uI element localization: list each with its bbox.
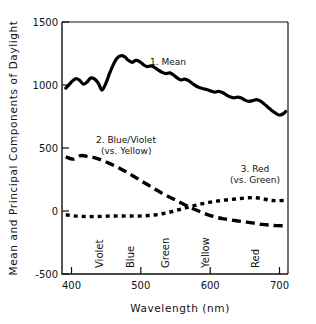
y-axis-tick-labels: 1500 1000 500 0 -500 [33,17,58,280]
x-tick-label: 500 [131,280,150,291]
x-tick-label: 400 [62,280,81,291]
y-tick-label: 1000 [33,80,58,91]
series-line-red-green [66,198,286,217]
band-label-violet: Violet [94,240,105,268]
y-tick-label: 500 [39,143,58,154]
annotation-blue-violet: 2. Blue/Violet [96,135,156,145]
color-band-labels: Violet Blue Green Yellow Red [94,237,261,269]
y-tick-label: 1500 [33,17,58,28]
daylight-spectrum-figure: 1500 1000 500 0 -500 400 500 600 700 Wav… [0,0,316,324]
y-axis-title: Mean and Principal Components of Dayligh… [7,21,19,276]
chart-svg: 1500 1000 500 0 -500 400 500 600 700 Wav… [0,0,316,324]
y-axis-ticks [62,22,69,274]
y-tick-label: -500 [35,269,58,280]
annotation-blue-violet-sub: (vs. Yellow) [101,146,151,156]
y-tick-label: 0 [52,206,58,217]
x-tick-label: 600 [201,280,220,291]
series-annotations: 1. Mean 2. Blue/Violet (vs. Yellow) 3. R… [96,57,280,185]
x-axis-title: Wavelength (nm) [130,302,230,314]
x-tick-label: 700 [270,280,289,291]
band-label-yellow: Yellow [200,237,211,269]
annotation-mean: 1. Mean [150,57,186,67]
x-axis-tick-labels: 400 500 600 700 [62,280,289,291]
band-label-green: Green [160,238,171,268]
annotation-red-green-sub: (vs. Green) [230,175,280,185]
band-label-blue: Blue [125,246,136,268]
band-label-red: Red [250,249,261,268]
annotation-red-green: 3. Red [241,164,270,174]
